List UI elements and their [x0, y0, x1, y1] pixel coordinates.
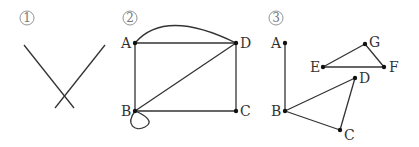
label-E: E: [310, 59, 320, 75]
panel-marker-1: 1: [20, 11, 34, 25]
label-B: B: [271, 103, 281, 119]
edge-EG: [323, 44, 365, 67]
label-F: F: [389, 59, 399, 75]
vertex-B: [283, 109, 287, 113]
svg-text:1: 1: [23, 11, 31, 25]
label-C: C: [240, 103, 251, 119]
panel-marker-3: 3: [269, 11, 283, 25]
label-A: A: [270, 35, 282, 51]
label-G: G: [369, 34, 380, 50]
vertex-A: [283, 41, 287, 45]
vertex-A: [133, 41, 137, 45]
vertex-G: [363, 42, 367, 46]
vertex-C: [234, 109, 238, 113]
panel-marker-2: 2: [123, 11, 137, 25]
panel-2: 2 A D B C: [120, 11, 251, 129]
vertex-D: [353, 76, 357, 80]
panel-1: 1: [20, 11, 105, 108]
panel-3: 3 A B C D E F G: [269, 11, 399, 143]
label-C: C: [344, 127, 355, 143]
edge-CD: [340, 78, 355, 130]
vertex-F: [382, 65, 386, 69]
loop-B: [131, 111, 149, 129]
label-D: D: [240, 35, 251, 51]
edge-BD: [135, 43, 236, 111]
vertex-B: [133, 109, 137, 113]
edge-BD: [285, 78, 355, 111]
vertex-E: [321, 65, 325, 69]
segment-1: [24, 45, 74, 108]
segment-2: [55, 45, 105, 108]
label-A: A: [120, 35, 132, 51]
edge-AD-curved: [135, 26, 236, 44]
vertex-D: [234, 41, 238, 45]
graph-figure: 1 2 A D B C 3: [0, 0, 419, 147]
vertex-C: [338, 128, 342, 132]
label-B: B: [121, 103, 131, 119]
edge-BC: [285, 111, 340, 130]
svg-text:3: 3: [272, 11, 280, 25]
svg-text:2: 2: [126, 11, 134, 25]
label-D: D: [359, 70, 370, 86]
